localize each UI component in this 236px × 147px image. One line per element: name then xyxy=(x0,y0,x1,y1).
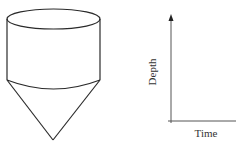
y-axis-label: Depth xyxy=(146,58,158,85)
tank-bottom-arc xyxy=(7,80,100,89)
x-axis-label: Time xyxy=(195,127,218,139)
tank xyxy=(7,9,100,140)
tank-top-ellipse xyxy=(7,9,100,29)
diagram-canvas: Time Depth xyxy=(0,0,236,147)
depth-time-graph: Time Depth xyxy=(146,14,236,139)
y-axis-arrow-icon xyxy=(169,14,174,21)
